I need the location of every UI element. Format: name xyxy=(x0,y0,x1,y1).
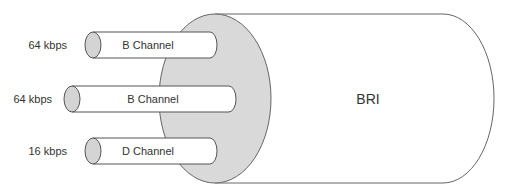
channel-rate-1: 64 kbps xyxy=(28,39,67,51)
channel-tube-end xyxy=(85,138,101,164)
channel-rate-2: 64 kbps xyxy=(13,93,52,105)
channel-rate-3: 16 kbps xyxy=(28,145,67,157)
channel-tube-end xyxy=(64,86,80,112)
channel-name-2: B Channel xyxy=(127,93,178,105)
bri-diagram: B Channel B Channel D Channel 64 kbps 64… xyxy=(0,0,506,194)
channel-name-1: B Channel xyxy=(122,39,173,51)
channel-tube-end xyxy=(85,32,101,58)
channel-name-3: D Channel xyxy=(122,145,174,157)
bri-label: BRI xyxy=(356,91,379,107)
